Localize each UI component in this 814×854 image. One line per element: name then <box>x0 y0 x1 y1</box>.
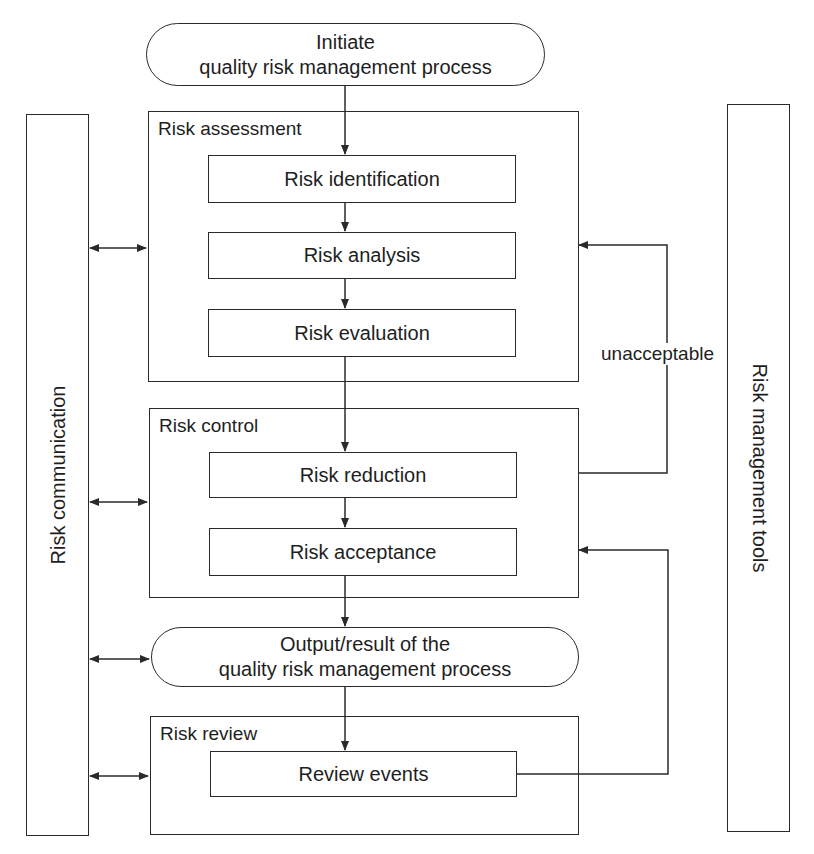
step-label: Risk identification <box>284 168 440 191</box>
step-risk-reduction: Risk reduction <box>209 452 517 498</box>
step-label: Risk evaluation <box>294 322 430 345</box>
step-risk-identification: Risk identification <box>208 155 516 203</box>
step-risk-evaluation: Risk evaluation <box>208 309 516 357</box>
step-label: Risk reduction <box>300 464 427 487</box>
risk-control-label: Risk control <box>159 415 258 437</box>
step-review-events: Review events <box>210 751 517 797</box>
start-line1: Initiate <box>199 30 491 55</box>
risk-communication-label: Risk communication <box>46 386 69 565</box>
unacceptable-label: unacceptable <box>600 343 715 365</box>
step-label: Review events <box>298 763 428 786</box>
output-line2: quality risk management process <box>219 657 511 682</box>
step-label: Risk analysis <box>304 244 421 267</box>
output-node: Output/result of the quality risk manage… <box>151 627 579 687</box>
step-label: Risk acceptance <box>290 541 437 564</box>
step-risk-analysis: Risk analysis <box>208 232 516 279</box>
output-line1: Output/result of the <box>219 632 511 657</box>
risk-assessment-label: Risk assessment <box>158 118 302 140</box>
risk-management-tools-label: Risk management tools <box>747 364 770 573</box>
start-line2: quality risk management process <box>199 55 491 80</box>
start-node: Initiate quality risk management process <box>146 23 545 86</box>
risk-management-tools-bar: Risk management tools <box>727 104 790 832</box>
risk-review-label: Risk review <box>160 723 257 745</box>
step-risk-acceptance: Risk acceptance <box>209 528 517 576</box>
risk-communication-bar: Risk communication <box>26 114 89 836</box>
